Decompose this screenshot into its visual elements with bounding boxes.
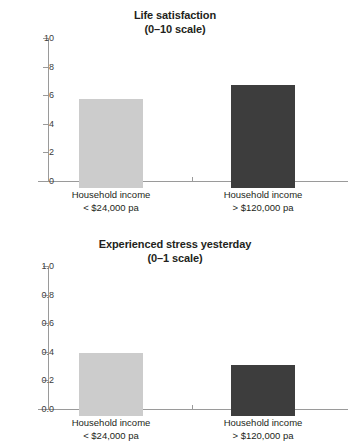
bar-high-income-life-satisfaction bbox=[231, 85, 295, 188]
bar-high-income-experienced-stress bbox=[231, 365, 295, 416]
x-axis-category-label-high-income: Household income > $120,000 pa bbox=[188, 416, 338, 442]
plot-area: 10 8 6 4 2 0 bbox=[0, 38, 350, 188]
y-axis-tick-label: 0.2 bbox=[14, 376, 54, 385]
x-axis-category-separator-tick bbox=[192, 177, 193, 182]
chart-title-block: Experienced stress yesterday (0–1 scale) bbox=[0, 228, 350, 265]
y-axis-tick-label: 2 bbox=[14, 148, 54, 157]
x-axis-category-label-high-income: Household income > $120,000 pa bbox=[188, 188, 338, 214]
y-axis-tick-label: 0.0 bbox=[14, 405, 54, 414]
y-axis-tick-label: 6 bbox=[14, 91, 54, 100]
chart-title-block: Life satisfaction (0–10 scale) bbox=[0, 0, 350, 36]
page-title: Life satisfaction bbox=[0, 8, 350, 22]
x-axis-category-label-line2: < $24,000 pa bbox=[36, 429, 186, 442]
figure-two-panel-bar-charts: Life satisfaction (0–10 scale) 10 8 6 4 … bbox=[0, 0, 350, 448]
x-axis-category-label-line2: > $120,000 pa bbox=[188, 429, 338, 442]
y-axis-tick-label: 1.0 bbox=[14, 262, 54, 271]
x-axis-category-label-line1: Household income bbox=[188, 188, 338, 201]
x-axis-category-label-line1: Household income bbox=[36, 188, 186, 201]
x-axis-category-label-line2: > $120,000 pa bbox=[188, 201, 338, 214]
y-axis-line bbox=[48, 38, 49, 181]
y-axis-tick-label: 0 bbox=[14, 177, 54, 186]
bar-low-income-life-satisfaction bbox=[79, 99, 143, 188]
chart-panel-life-satisfaction: Life satisfaction (0–10 scale) 10 8 6 4 … bbox=[0, 0, 350, 228]
bar-low-income-experienced-stress bbox=[79, 353, 143, 416]
x-axis-category-label-low-income: Household income < $24,000 pa bbox=[36, 416, 186, 442]
x-axis-category-label-line2: < $24,000 pa bbox=[36, 201, 186, 214]
x-axis-category-label-line1: Household income bbox=[188, 416, 338, 429]
chart-title-secondary: Experienced stress yesterday bbox=[0, 237, 350, 251]
y-axis-tick-label: 0.4 bbox=[14, 347, 54, 356]
y-axis-tick-label: 0.8 bbox=[14, 290, 54, 299]
x-axis-category-label-line1: Household income bbox=[36, 416, 186, 429]
y-axis-tick-label: 8 bbox=[14, 62, 54, 71]
y-axis-tick-label: 4 bbox=[14, 119, 54, 128]
plot-area: 1.0 0.8 0.6 0.4 0.2 0.0 bbox=[0, 266, 350, 416]
x-axis-category-label-low-income: Household income < $24,000 pa bbox=[36, 188, 186, 214]
x-axis-category-separator-tick bbox=[192, 405, 193, 410]
y-axis-tick-label: 0.6 bbox=[14, 319, 54, 328]
y-axis-line bbox=[48, 266, 49, 409]
y-axis-tick-label: 10 bbox=[14, 34, 54, 43]
